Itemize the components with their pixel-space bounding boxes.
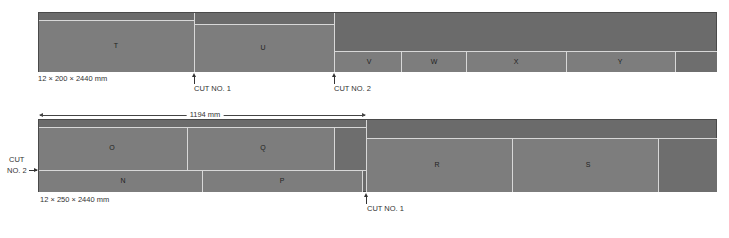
piece-label-t: T [114,42,118,49]
piece-label-p: P [280,177,285,184]
cut-line [362,170,363,192]
arrow-left-icon [39,113,43,117]
piece-label-q: Q [260,144,265,151]
offcut [659,139,717,192]
cut-line [367,138,717,139]
cut-no-2-arrow-icon [334,76,335,84]
cut-no-1-line [366,120,367,192]
cut-no-1-label: CUT NO. 1 [194,84,231,93]
arrow-right-icon [362,113,366,117]
cut-line [334,127,335,170]
cut-no-2-label-line1: CUT [9,155,24,164]
cut-no-1-line [194,13,195,72]
piece-label-y: Y [618,58,623,65]
top-board-dimensions: 12 × 200 × 2440 mm [38,74,107,83]
piece-label-n: N [120,177,125,184]
cut-no-2-line [334,13,335,72]
bottom-board-dimensions: 12 × 250 × 2440 mm [40,195,109,204]
top-board [38,12,717,72]
piece-label-s: S [586,161,591,168]
length-dimension-arrow: 1194 mm [40,115,365,116]
cut-line [401,51,402,72]
piece-label-v: V [367,58,372,65]
piece-label-x: X [514,58,519,65]
cut-line [675,51,676,72]
cut-no-1-label: CUT NO. 1 [367,204,404,213]
cut-no-2-label-line2: NO. 2 [7,166,27,175]
cut-line [195,24,334,25]
cut-no-1-arrow-icon [194,76,195,84]
cut-line [187,127,188,170]
piece-label-w: W [431,58,438,65]
length-dimension-label: 1194 mm [187,110,224,119]
piece-label-o: O [109,144,114,151]
piece-label-r: R [434,161,439,168]
piece-label-u: U [260,44,265,51]
cut-line [566,51,567,72]
cut-line [658,138,659,192]
cut-line [466,51,467,72]
cut-line [335,51,717,52]
cut-no-2-label: CUT NO. 2 [334,84,371,93]
cut-line [39,20,194,21]
cut-no-2-arrow-icon [29,170,37,171]
cut-line [512,138,513,192]
offcut [335,128,366,170]
bottom-board [38,119,717,192]
cut-line [202,170,203,192]
cut-line [39,127,366,128]
offcut [676,52,717,72]
cut-no-1-arrow-icon [366,196,367,204]
